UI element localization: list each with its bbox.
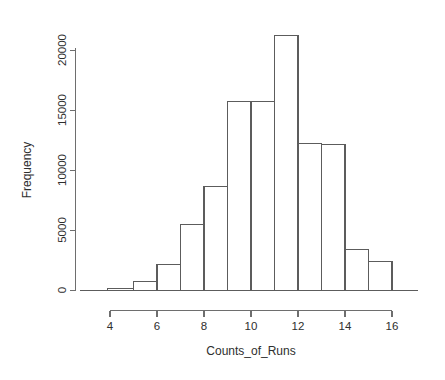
histogram-bar — [369, 261, 393, 290]
y-tick-label-15000: 15000 — [56, 94, 68, 126]
histogram-chart: 0 5000 10000 15000 20000 Frequency 46810… — [0, 0, 445, 380]
histogram-bar — [134, 282, 158, 291]
x-tick-label-12: 12 — [292, 320, 305, 332]
y-axis-title: Frequency — [20, 142, 34, 199]
x-axis: 46810121416 Counts_of_Runs — [107, 311, 399, 359]
histogram-bar — [228, 102, 252, 291]
x-tick-label-10: 10 — [245, 320, 258, 332]
x-axis-tick-labels: 46810121416 — [107, 320, 399, 332]
y-tick-label-10000: 10000 — [56, 154, 68, 186]
histogram-plot-area: 0 5000 10000 15000 20000 Frequency 46810… — [0, 0, 445, 380]
y-tick-label-20000: 20000 — [56, 34, 68, 66]
x-axis-ticks — [110, 311, 392, 317]
x-tick-label-4: 4 — [107, 320, 114, 332]
histogram-bar — [322, 145, 346, 291]
y-axis-tick-labels: 0 5000 10000 15000 20000 — [56, 34, 68, 293]
histogram-bars — [108, 36, 392, 291]
histogram-bar — [251, 102, 275, 291]
y-tick-label-5000: 5000 — [56, 217, 68, 243]
histogram-bar — [181, 225, 205, 291]
y-axis-ticks — [70, 51, 76, 291]
y-axis: 0 5000 10000 15000 20000 Frequency — [20, 34, 75, 293]
x-axis-title: Counts_of_Runs — [206, 344, 295, 358]
histogram-bar — [157, 264, 181, 290]
histogram-bar — [204, 187, 228, 291]
x-tick-label-16: 16 — [386, 320, 399, 332]
x-tick-label-14: 14 — [339, 320, 352, 332]
histogram-bar — [345, 250, 369, 291]
y-tick-label-0: 0 — [56, 287, 68, 293]
histogram-bar — [275, 36, 299, 291]
histogram-bar — [298, 144, 322, 291]
x-tick-label-6: 6 — [154, 320, 160, 332]
x-tick-label-8: 8 — [201, 320, 207, 332]
